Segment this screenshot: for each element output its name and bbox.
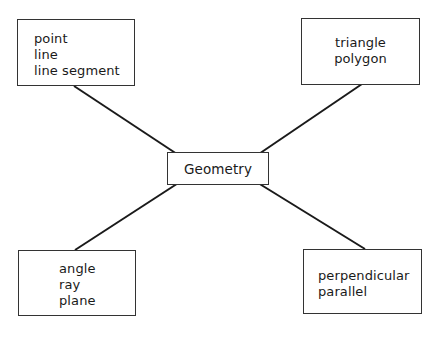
edge-top-left bbox=[74, 86, 186, 160]
item-angle: angle bbox=[59, 261, 96, 277]
node-top-left: point line line segment bbox=[17, 19, 135, 86]
item-parallel: parallel bbox=[318, 284, 410, 300]
item-point: point bbox=[34, 31, 120, 47]
node-items: point line line segment bbox=[34, 31, 120, 79]
edge-bottom-right bbox=[250, 178, 365, 249]
node-center: Geometry bbox=[167, 152, 269, 185]
node-items: angle ray plane bbox=[59, 261, 96, 309]
node-bottom-right: perpendicular parallel bbox=[303, 249, 422, 314]
item-line-segment: line segment bbox=[34, 63, 120, 79]
node-items: perpendicular parallel bbox=[318, 268, 410, 300]
center-label: Geometry bbox=[168, 161, 268, 177]
node-items: triangle polygon bbox=[302, 35, 419, 67]
edge-bottom-left bbox=[75, 178, 186, 250]
item-line: line bbox=[34, 47, 120, 63]
item-ray: ray bbox=[59, 277, 96, 293]
item-triangle: triangle bbox=[302, 35, 419, 51]
node-bottom-left: angle ray plane bbox=[18, 250, 136, 316]
item-perpendicular: perpendicular bbox=[318, 268, 410, 284]
item-polygon: polygon bbox=[302, 51, 419, 67]
node-top-right: triangle polygon bbox=[301, 18, 420, 85]
item-plane: plane bbox=[59, 293, 96, 309]
edge-top-right bbox=[250, 84, 362, 160]
